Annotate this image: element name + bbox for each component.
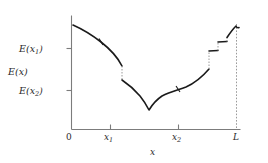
- figure-container: E(x1) E(x) E(x2) 0 x1 x2 L x: [0, 0, 268, 163]
- y-tick-label-lower-subscript: 2: [35, 90, 39, 98]
- y-tick-label-upper-text: E(x: [19, 43, 35, 54]
- curve-branch-2: [122, 69, 209, 110]
- curve-plateau-1: [209, 51, 218, 52]
- y-tick-label-upper-subscript: 1: [35, 48, 39, 56]
- y-tick-label-lower-close: ): [39, 86, 43, 96]
- x-tick-label-x1: x1: [104, 133, 113, 142]
- x-axis-title: x: [150, 148, 155, 157]
- curve-branch-final: [227, 26, 239, 38]
- y-tick-label-upper-close: ): [39, 44, 43, 54]
- curve-plateau-2: [218, 42, 227, 43]
- y-axis-title: E(x): [8, 67, 28, 77]
- x-tick-label-x2-subscript: 2: [177, 136, 181, 144]
- curve-branch-1: [73, 25, 122, 66]
- x-tick-label-x1-subscript: 1: [109, 136, 113, 144]
- x-tick-label-x2: x2: [172, 133, 181, 142]
- chart-plot-area: [0, 0, 268, 163]
- y-tick-label-lower: E(x2): [19, 86, 43, 96]
- x-tick-label-origin: 0: [66, 133, 72, 142]
- y-tick-label-upper: E(x1): [19, 44, 43, 54]
- x-tick-label-L: L: [233, 133, 239, 142]
- y-tick-label-lower-text: E(x: [19, 85, 35, 96]
